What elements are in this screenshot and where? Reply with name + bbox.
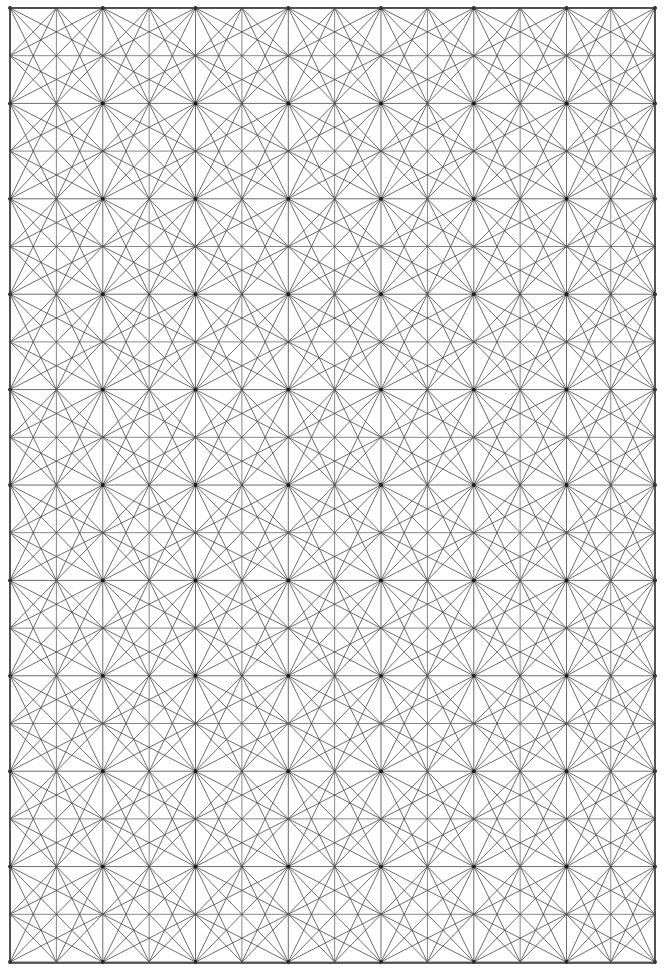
- pattern-figure: [0, 0, 665, 973]
- tessellation-canvas: [0, 0, 665, 973]
